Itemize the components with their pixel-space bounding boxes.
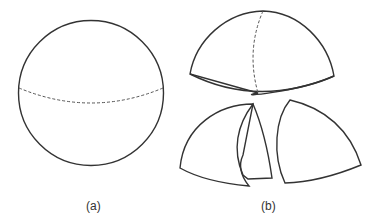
sphere-equator-dashed — [19, 88, 163, 103]
hemisphere-cap — [190, 11, 334, 95]
figure-canvas — [0, 0, 378, 223]
sphere-outline — [19, 21, 164, 166]
panel-label-a: (a) — [86, 199, 101, 213]
quarter-piece-right — [277, 100, 361, 183]
panel-label-b: (b) — [261, 199, 276, 213]
hemisphere-meridian-dashed — [253, 11, 263, 93]
hemisphere-bottom-edge — [190, 74, 334, 92]
wedge-piece-middle — [237, 104, 272, 179]
